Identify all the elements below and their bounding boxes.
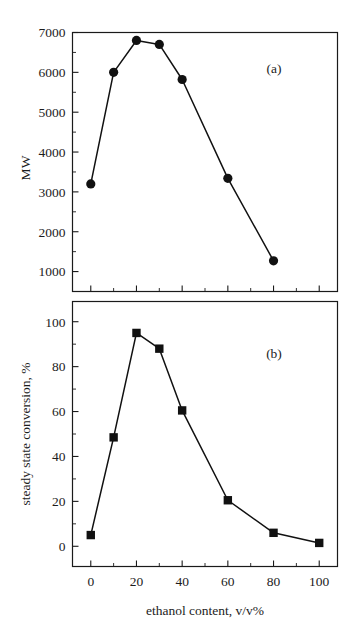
y-tick-label: 2000 <box>39 225 66 240</box>
panel-a-series-line <box>91 40 274 260</box>
two-panel-line-chart: 1000200030004000500060007000 MW (a) 0204… <box>0 0 356 638</box>
y-tick-label: 1000 <box>39 264 66 279</box>
y-tick-label: 7000 <box>39 25 66 40</box>
panel-a-markers <box>86 36 278 266</box>
panel-b-y-axis-title: steady state conversion, % <box>18 362 33 505</box>
figure-container: 1000200030004000500060007000 MW (a) 0204… <box>0 0 356 638</box>
x-tick-label: 60 <box>221 574 235 589</box>
shared-x-axis-title: ethanol content, v/v% <box>146 603 264 618</box>
panel-a-y-tick-labels: 1000200030004000500060007000 <box>39 25 66 279</box>
y-tick-label: 4000 <box>39 145 66 160</box>
y-tick-label: 80 <box>52 359 66 374</box>
y-tick-label: 20 <box>52 494 66 509</box>
panel-b-label: (b) <box>266 346 282 361</box>
x-tick-label: 0 <box>87 574 94 589</box>
data-point-marker <box>269 256 278 265</box>
y-tick-label: 100 <box>45 315 66 330</box>
panel-b-markers <box>87 329 324 547</box>
data-point-marker <box>86 179 95 188</box>
data-point-marker <box>109 68 118 77</box>
data-point-marker <box>315 539 323 547</box>
y-tick-label: 6000 <box>39 65 66 80</box>
x-tick-label: 20 <box>130 574 144 589</box>
data-point-marker <box>178 406 186 414</box>
y-tick-label: 0 <box>59 539 66 554</box>
panel-b-y-tick-labels: 020406080100 <box>45 315 66 555</box>
panel-b-x-ticks <box>91 561 319 567</box>
panel-b: 020406080100 020406080100 steady state c… <box>18 302 338 619</box>
panel-a-y-axis-title: MW <box>18 155 33 180</box>
panel-a-y-ticks <box>73 33 79 272</box>
x-tick-label: 80 <box>267 574 281 589</box>
data-point-marker <box>109 433 117 441</box>
data-point-marker <box>224 496 232 504</box>
panel-b-x-tick-labels: 020406080100 <box>87 574 329 589</box>
x-tick-label: 40 <box>175 574 189 589</box>
data-point-marker <box>223 174 232 183</box>
y-tick-label: 60 <box>52 404 66 419</box>
y-tick-label: 40 <box>52 449 66 464</box>
y-tick-label: 3000 <box>39 185 66 200</box>
data-point-marker <box>269 529 277 537</box>
data-point-marker <box>155 344 163 352</box>
x-tick-label: 100 <box>309 574 330 589</box>
data-point-marker <box>178 75 187 84</box>
data-point-marker <box>155 40 164 49</box>
panel-a-label: (a) <box>267 61 282 76</box>
data-point-marker <box>132 36 141 45</box>
data-point-marker <box>132 329 140 337</box>
y-tick-label: 5000 <box>39 105 66 120</box>
panel-a: 1000200030004000500060007000 MW (a) <box>18 25 338 291</box>
panel-b-y-ticks <box>73 322 79 547</box>
data-point-marker <box>87 531 95 539</box>
panel-a-x-ticks <box>91 286 319 292</box>
panel-b-series-line <box>91 333 319 543</box>
